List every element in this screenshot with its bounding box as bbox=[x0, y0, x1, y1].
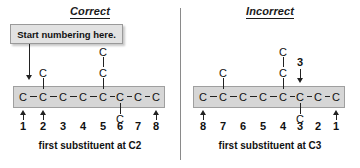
chain-atom-incorrect-4: C bbox=[257, 91, 269, 103]
substituent-atom-incorrect-c5-up-1: C bbox=[277, 67, 289, 79]
chain-atom-incorrect-2: C bbox=[217, 91, 229, 103]
chain-bond-6-7 bbox=[127, 96, 132, 97]
substituent-bond-c2-up bbox=[43, 78, 44, 89]
callout-leader-arrowhead-icon bbox=[26, 75, 32, 80]
chain-atom-8: C bbox=[150, 91, 162, 103]
callout-number-3-label: 3 bbox=[293, 56, 307, 68]
start-numbering-callout: Start numbering here. bbox=[10, 24, 123, 44]
chain-bond-incorrect-6-7 bbox=[307, 96, 312, 97]
start-numbering-callout-text: Start numbering here. bbox=[17, 29, 116, 40]
chain-number-6: 6 bbox=[113, 120, 127, 132]
substituent-bond-incorrect-c5-up-lower bbox=[283, 78, 284, 89]
chain-number-incorrect-6: 3 bbox=[293, 120, 307, 132]
chain-atom-incorrect-5: C bbox=[277, 91, 289, 103]
chemistry-numbering-figure: Correct Start numbering here. C C C C C … bbox=[0, 0, 360, 168]
chain-number-5: 5 bbox=[96, 120, 110, 132]
chain-bond-incorrect-4-5 bbox=[270, 96, 277, 97]
chain-atom-3: C bbox=[57, 91, 69, 103]
number-arrowhead-8-icon bbox=[153, 110, 159, 115]
substituent-atom-incorrect-c5-up-2: C bbox=[277, 46, 289, 58]
chain-bond-incorrect-2-3 bbox=[230, 96, 237, 97]
chain-bond-5-6 bbox=[110, 96, 115, 97]
substituent-bond-incorrect-c5-up-upper bbox=[283, 57, 284, 67]
panel-correct-heading: Correct bbox=[0, 5, 180, 17]
callout-number-3-arrowhead-icon bbox=[297, 78, 303, 83]
number-arrowhead-incorrect-right-icon bbox=[333, 110, 339, 115]
number-arrowhead-2-icon bbox=[40, 110, 46, 115]
number-arrowhead-1-icon bbox=[20, 110, 26, 115]
chain-atom-6: C bbox=[114, 91, 126, 103]
chain-number-incorrect-7: 2 bbox=[311, 120, 325, 132]
chain-number-incorrect-1: 8 bbox=[196, 120, 210, 132]
chain-bond-incorrect-1-2 bbox=[210, 96, 217, 97]
panel-correct-caption: first substituent at C2 bbox=[0, 140, 180, 151]
substituent-atom-c2-up-1: C bbox=[37, 67, 49, 79]
panel-incorrect-heading: Incorrect bbox=[180, 5, 360, 17]
chain-bond-7-8 bbox=[145, 96, 150, 97]
chain-number-3: 3 bbox=[56, 120, 70, 132]
panel-incorrect: Incorrect C C C C C C C C C C C C 3 bbox=[180, 0, 360, 168]
substituent-bond-c5-up-upper bbox=[103, 57, 104, 67]
chain-number-incorrect-2: 7 bbox=[216, 120, 230, 132]
chain-atom-incorrect-6: C bbox=[294, 91, 306, 103]
chain-atom-2: C bbox=[37, 91, 49, 103]
chain-number-4: 4 bbox=[76, 120, 90, 132]
substituent-bond-incorrect-c2-up bbox=[223, 78, 224, 89]
chain-number-7: 7 bbox=[131, 120, 145, 132]
chain-bond-4-5 bbox=[90, 96, 97, 97]
substituent-bond-c5-up-lower bbox=[103, 78, 104, 89]
number-arrowhead-incorrect-left-icon bbox=[200, 110, 206, 115]
chain-bond-incorrect-3-4 bbox=[250, 96, 257, 97]
chain-number-incorrect-4: 5 bbox=[256, 120, 270, 132]
chain-number-incorrect-8: 1 bbox=[329, 120, 343, 132]
chain-number-1: 1 bbox=[16, 120, 30, 132]
panel-incorrect-caption: first substituent at C3 bbox=[180, 140, 360, 151]
substituent-atom-c5-up-1: C bbox=[97, 67, 109, 79]
chain-atom-incorrect-1: C bbox=[197, 91, 209, 103]
chain-number-incorrect-5: 4 bbox=[276, 120, 290, 132]
chain-atom-1: C bbox=[17, 91, 29, 103]
chain-bond-incorrect-7-8 bbox=[325, 96, 330, 97]
chain-bond-1-2 bbox=[30, 96, 37, 97]
panel-correct: Correct Start numbering here. C C C C C … bbox=[0, 0, 180, 168]
chain-number-2: 2 bbox=[36, 120, 50, 132]
chain-atom-incorrect-7: C bbox=[312, 91, 324, 103]
chain-bond-3-4 bbox=[70, 96, 77, 97]
substituent-atom-incorrect-c2-up-1: C bbox=[217, 67, 229, 79]
chain-atom-4: C bbox=[77, 91, 89, 103]
chain-atom-incorrect-8: C bbox=[330, 91, 342, 103]
chain-bond-incorrect-5-6 bbox=[290, 96, 295, 97]
chain-bond-2-3 bbox=[50, 96, 57, 97]
chain-atom-incorrect-3: C bbox=[237, 91, 249, 103]
callout-leader-line bbox=[29, 44, 30, 76]
chain-atom-5: C bbox=[97, 91, 109, 103]
chain-atom-7: C bbox=[132, 91, 144, 103]
substituent-atom-c5-up-2: C bbox=[97, 46, 109, 58]
panel-correct-heading-text: Correct bbox=[70, 5, 110, 19]
panel-incorrect-heading-text: Incorrect bbox=[246, 5, 294, 19]
chain-number-incorrect-3: 6 bbox=[236, 120, 250, 132]
chain-number-8: 8 bbox=[149, 120, 163, 132]
